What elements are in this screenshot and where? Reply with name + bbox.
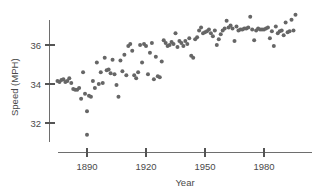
data-point: [195, 35, 199, 39]
x-tick-label: 1890: [76, 161, 97, 172]
data-point: [272, 44, 276, 48]
data-point: [134, 76, 138, 80]
data-point: [160, 60, 164, 64]
data-point: [91, 79, 95, 83]
data-point: [225, 19, 229, 23]
data-point: [138, 43, 142, 47]
data-point: [290, 18, 294, 22]
data-point: [77, 86, 81, 90]
data-point: [85, 133, 89, 137]
data-point: [79, 97, 83, 101]
data-point: [140, 61, 144, 65]
data-point: [83, 92, 87, 96]
data-point: [234, 24, 238, 28]
plot-canvas: 323436 1890192019501980 Speed (MPH) Year: [0, 0, 321, 193]
data-point: [282, 33, 286, 37]
data-point: [103, 56, 107, 60]
data-point: [148, 51, 152, 55]
data-point: [185, 42, 189, 46]
data-point: [280, 28, 284, 32]
data-point: [116, 95, 120, 99]
data-point: [268, 36, 272, 40]
data-point: [89, 95, 93, 99]
data-point: [111, 58, 115, 62]
data-point: [211, 34, 215, 38]
x-tick-label: 1980: [253, 161, 274, 172]
scatter-plot-figure: 323436 1890192019501980 Speed (MPH) Year: [0, 0, 321, 193]
data-point: [118, 59, 122, 63]
data-point: [246, 25, 250, 29]
data-points-layer: [56, 13, 298, 137]
data-point: [120, 69, 124, 73]
data-point: [207, 27, 211, 31]
data-point: [199, 25, 203, 29]
data-point: [252, 38, 256, 42]
data-point: [284, 21, 288, 25]
data-point: [233, 39, 237, 43]
x-axis-title: Year: [175, 177, 194, 188]
data-point: [191, 56, 195, 60]
data-point: [270, 29, 274, 33]
data-point: [146, 72, 150, 76]
data-point: [130, 49, 134, 53]
data-point: [223, 26, 227, 30]
y-tick-label: 34: [30, 79, 41, 90]
data-point: [231, 26, 235, 30]
data-point: [99, 70, 103, 74]
data-point: [154, 55, 158, 59]
data-point: [97, 82, 101, 86]
data-point: [175, 45, 179, 49]
data-point: [67, 76, 71, 80]
data-point: [172, 42, 176, 46]
data-point: [136, 70, 140, 74]
data-point: [217, 37, 221, 41]
data-point: [250, 27, 254, 31]
data-point: [95, 61, 99, 65]
y-tick-label: 36: [30, 40, 41, 51]
data-point: [266, 25, 270, 29]
data-point: [274, 24, 278, 28]
data-point: [174, 31, 178, 35]
y-tick-group: 323436: [30, 40, 55, 129]
data-point: [150, 41, 154, 45]
data-point: [248, 15, 252, 19]
data-point: [288, 29, 292, 33]
y-axis-title: Speed (MPH): [9, 58, 20, 116]
data-point: [213, 28, 217, 32]
data-point: [187, 36, 191, 40]
x-tick-label: 1920: [135, 161, 156, 172]
data-point: [158, 75, 162, 79]
x-tick-label: 1950: [194, 161, 215, 172]
data-point: [144, 44, 148, 48]
data-point: [93, 86, 97, 90]
data-point: [69, 81, 73, 85]
data-point: [152, 77, 156, 81]
data-point: [109, 71, 113, 75]
y-tick-label: 32: [30, 118, 41, 129]
data-point: [293, 13, 297, 17]
data-point: [85, 109, 89, 113]
data-point: [81, 70, 85, 74]
data-point: [215, 43, 219, 47]
data-point: [181, 44, 185, 48]
x-tick-group: 1890192019501980: [76, 148, 274, 172]
data-point: [113, 72, 117, 76]
data-point: [292, 28, 296, 32]
data-point: [122, 53, 126, 57]
data-point: [115, 83, 119, 87]
data-point: [107, 67, 111, 71]
data-point: [128, 42, 132, 46]
data-point: [101, 81, 105, 85]
data-point: [124, 73, 128, 77]
data-point: [219, 32, 223, 36]
